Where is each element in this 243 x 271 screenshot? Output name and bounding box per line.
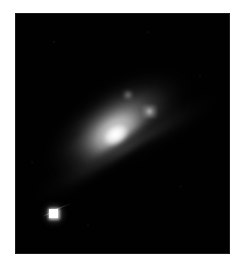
astronomical-plate: [15, 13, 230, 254]
inner-dust-filament: [65, 92, 194, 191]
dust-lane: [41, 97, 213, 227]
galaxy-disk: [15, 25, 222, 227]
hii-region-knot: [142, 105, 157, 118]
galaxy-bulge: [53, 75, 175, 192]
hii-region-knot-secondary: [123, 90, 134, 100]
image-caption: inclined spiral galaxy with bright nucle…: [0, 0, 1, 1]
galaxy-nucleus: [92, 113, 137, 155]
point-source-core: [49, 209, 58, 218]
image-canvas: inclined spiral galaxy with bright nucle…: [0, 0, 243, 271]
